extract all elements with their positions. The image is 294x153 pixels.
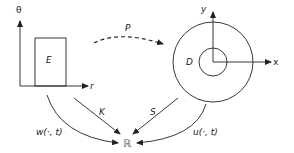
map-k-arrow xyxy=(74,98,120,134)
w-label: w(·, t) xyxy=(36,128,63,137)
e-label: E xyxy=(46,56,52,65)
u-label: u(·, t) xyxy=(193,128,218,137)
s-label: S xyxy=(150,108,156,117)
reals-target-label: ℝ xyxy=(123,139,131,149)
k-label: K xyxy=(99,108,105,117)
d-label: D xyxy=(186,58,193,67)
x-label: x xyxy=(273,58,278,67)
map-u-arrow xyxy=(137,104,206,143)
map-p-arrow xyxy=(94,37,163,44)
theta-label: θ xyxy=(16,6,22,15)
y-label: y xyxy=(201,5,206,14)
r-label: r xyxy=(90,82,94,91)
p-label: P xyxy=(125,24,130,33)
